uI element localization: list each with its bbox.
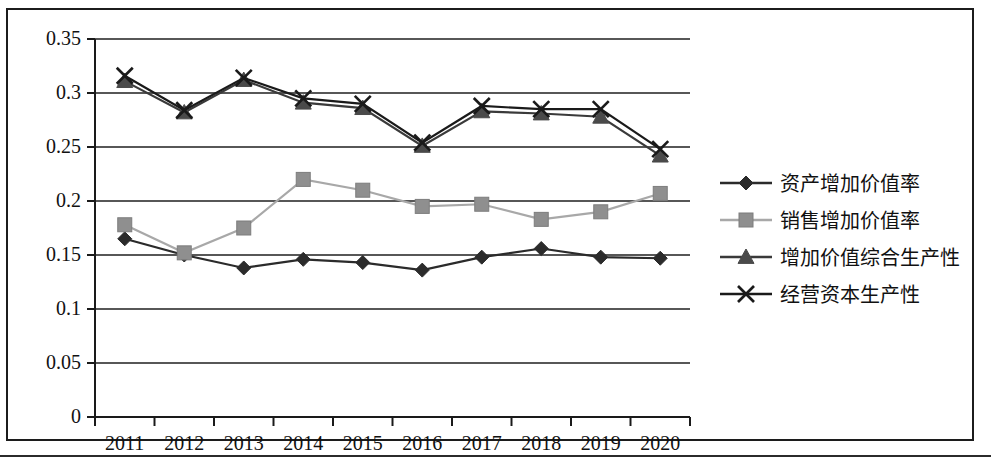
chart-legend: 资产增加价值率销售增加价值率增加价值综合生产性经营资本生产性 [718, 164, 986, 312]
square-marker [356, 183, 370, 197]
diamond-marker [356, 256, 370, 270]
axes [95, 39, 690, 417]
y-axis-ticks [87, 39, 95, 417]
y-tick-label: 0.15 [3, 244, 81, 264]
legend-item-label: 经营资本生产性 [774, 279, 920, 308]
x-axis-ticks [95, 417, 690, 426]
series-2 [117, 72, 669, 162]
square-marker [718, 208, 774, 232]
series-line [125, 80, 661, 156]
legend-item[interactable]: 销售增加价值率 [718, 201, 986, 238]
legend-item[interactable]: 增加价值综合生产性 [718, 238, 986, 275]
diamond-marker [718, 171, 774, 195]
square-marker [118, 218, 132, 232]
square-marker [296, 172, 310, 186]
diamond-marker [739, 176, 753, 190]
square-marker [739, 213, 753, 227]
cross-marker [718, 282, 774, 306]
square-marker [475, 197, 489, 211]
triangle-marker [718, 245, 774, 269]
square-marker [415, 199, 429, 213]
series-1 [118, 172, 668, 259]
legend-item[interactable]: 资产增加价值率 [718, 164, 986, 201]
gridlines [95, 39, 690, 417]
y-tick-label: 0.05 [3, 352, 81, 372]
y-tick-label: 0.3 [3, 82, 81, 102]
y-tick-label: 0.1 [3, 298, 81, 318]
square-marker [177, 246, 191, 260]
diamond-marker [237, 261, 251, 275]
series-3 [117, 68, 669, 157]
legend-item-label: 资产增加价值率 [774, 168, 920, 197]
diamond-marker [534, 242, 548, 256]
legend-item-label: 销售增加价值率 [774, 205, 920, 234]
y-tick-label: 0.2 [3, 190, 81, 210]
square-marker [653, 186, 667, 200]
line-chart: 00.050.10.150.20.250.30.35 2011201220132… [0, 0, 991, 463]
square-marker [534, 212, 548, 226]
chart-page: 00.050.10.150.20.250.30.35 2011201220132… [0, 0, 991, 463]
diamond-marker [594, 250, 608, 264]
diamond-marker [653, 251, 667, 265]
series-line [125, 179, 661, 252]
series-line [125, 76, 661, 149]
diamond-marker [415, 263, 429, 277]
diamond-marker [475, 250, 489, 264]
square-marker [594, 205, 608, 219]
legend-item[interactable]: 经营资本生产性 [718, 275, 986, 312]
legend-item-label: 增加价值综合生产性 [774, 242, 960, 271]
y-tick-label: 0.25 [3, 136, 81, 156]
x-tick-label: 2020 [625, 433, 695, 453]
y-tick-label: 0 [3, 406, 81, 426]
square-marker [237, 221, 251, 235]
y-tick-label: 0.35 [3, 28, 81, 48]
data-series-layer [117, 68, 669, 277]
diamond-marker [118, 232, 132, 246]
